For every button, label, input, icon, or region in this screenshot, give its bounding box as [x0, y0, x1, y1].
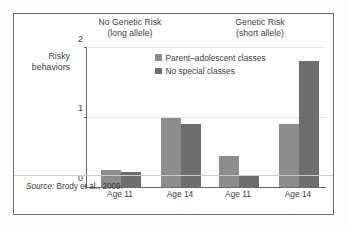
group-header-no-genetic-risk: No Genetic Risk (long allele) — [76, 17, 184, 38]
bar — [299, 61, 319, 187]
bar — [279, 124, 299, 187]
bar — [161, 118, 181, 188]
x-axis-tick-label: Age 14 — [285, 189, 312, 199]
group-header-subtitle: (short allele) — [206, 28, 314, 39]
bar — [121, 172, 141, 187]
source-citation: Brody et al., 2009. — [57, 182, 123, 191]
plot-area: 012 Parent–adolescent classes No special… — [86, 48, 326, 188]
y-axis-title: Risky behaviors — [16, 51, 70, 73]
x-axis-tick-label: Age 14 — [167, 189, 194, 199]
y-axis-tick-label: 2 — [78, 34, 83, 44]
bar — [239, 175, 259, 187]
y-axis-title-line1: Risky — [16, 51, 70, 62]
group-header-title: Genetic Risk — [206, 17, 314, 28]
source-divider — [14, 175, 333, 176]
y-axis-tick-label: 1 — [78, 103, 83, 113]
group-header-title: No Genetic Risk — [76, 17, 184, 28]
y-axis-title-line2: behaviors — [16, 62, 70, 73]
bar — [181, 124, 201, 187]
source-note: Source: Brody et al., 2009. — [26, 182, 123, 191]
bars-layer — [87, 48, 326, 187]
x-axis-tick-label: Age 11 — [225, 189, 251, 199]
figure-card: No Genetic Risk (long allele) Genetic Ri… — [13, 13, 334, 215]
bar — [219, 156, 239, 187]
group-headers: No Genetic Risk (long allele) Genetic Ri… — [14, 17, 335, 47]
x-axis-labels: Age 11Age 14Age 11Age 14 — [86, 189, 325, 203]
figure-page: No Genetic Risk (long allele) Genetic Ri… — [0, 0, 349, 231]
group-header-subtitle: (long allele) — [76, 28, 184, 39]
y-axis-tick-label: 0 — [78, 173, 83, 183]
source-label: Source: — [26, 182, 54, 191]
group-header-genetic-risk: Genetic Risk (short allele) — [206, 17, 314, 38]
